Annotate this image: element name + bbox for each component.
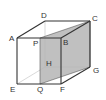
label-d: D — [41, 11, 47, 20]
label-c: C — [92, 14, 98, 23]
label-a: A — [9, 34, 15, 43]
label-e: E — [10, 85, 15, 94]
shaded-plane-pcgq — [40, 21, 90, 84]
label-h: H — [46, 59, 52, 68]
label-p: P — [33, 39, 38, 48]
label-g: G — [93, 66, 99, 75]
edge-da — [17, 21, 45, 38]
label-b: B — [63, 38, 68, 47]
cube-diagram: A B C D E F G H P Q — [0, 0, 106, 100]
label-f: F — [60, 85, 65, 94]
label-q: Q — [37, 85, 43, 94]
